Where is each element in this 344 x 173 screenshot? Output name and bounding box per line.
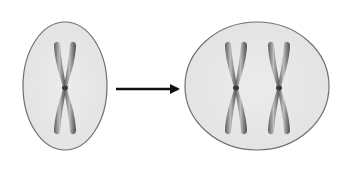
cell-membrane [185, 22, 329, 150]
cell-before [23, 22, 107, 150]
cell-after [185, 22, 329, 150]
diagram-canvas: Cell with one chromosome becomes cell wi… [0, 0, 344, 173]
